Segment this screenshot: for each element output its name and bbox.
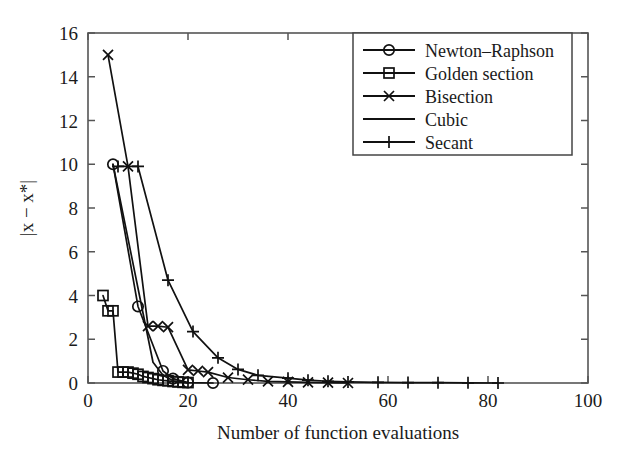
y-tick-label: 12 [59, 111, 78, 132]
x-tick-label: 40 [279, 390, 298, 411]
series-4 [112, 160, 504, 389]
data-point-plus [462, 377, 474, 389]
data-point-plus [492, 377, 504, 389]
y-tick-label: 14 [59, 67, 79, 88]
series-0 [108, 159, 218, 388]
x-axis-title: Number of function evaluations [217, 422, 459, 443]
y-tick-label: 8 [69, 198, 79, 219]
legend-label: Bisection [425, 87, 493, 107]
series-path [108, 55, 348, 383]
data-point-plus [322, 375, 334, 387]
legend-label: Cubic [425, 110, 468, 130]
series-path [118, 166, 498, 383]
series-path [113, 164, 188, 383]
y-tick-label: 10 [59, 154, 78, 175]
y-tick-label: 4 [69, 286, 79, 307]
data-point-plus [132, 160, 144, 172]
legend-layer: Newton–RaphsonGolden sectionBisectionCub… [353, 33, 572, 155]
figure-container: 0204060801000246810121416Number of funct… [0, 0, 627, 458]
data-point-plus [402, 377, 414, 389]
x-tick-label: 0 [83, 390, 93, 411]
series-2 [103, 50, 353, 388]
y-tick-label: 16 [59, 23, 78, 44]
series-3 [113, 164, 188, 383]
x-tick-label: 20 [179, 390, 198, 411]
series-path [113, 164, 213, 383]
legend-label: Golden section [425, 64, 533, 84]
legend-label: Secant [425, 133, 473, 153]
data-point-plus [432, 377, 444, 389]
y-tick-label: 6 [69, 242, 79, 263]
y-axis-title: |x − x*| [16, 180, 37, 236]
data-point-plus [372, 376, 384, 388]
data-point-plus [232, 363, 244, 375]
x-tick-label: 100 [574, 390, 603, 411]
data-point-plus [302, 374, 314, 386]
line-chart: 0204060801000246810121416Number of funct… [0, 0, 627, 458]
x-tick-label: 60 [379, 390, 398, 411]
y-tick-label: 2 [69, 329, 79, 350]
legend-label: Newton–Raphson [425, 41, 554, 61]
data-point-plus [162, 274, 174, 286]
x-tick-label: 80 [479, 390, 498, 411]
y-tick-label: 0 [69, 373, 79, 394]
